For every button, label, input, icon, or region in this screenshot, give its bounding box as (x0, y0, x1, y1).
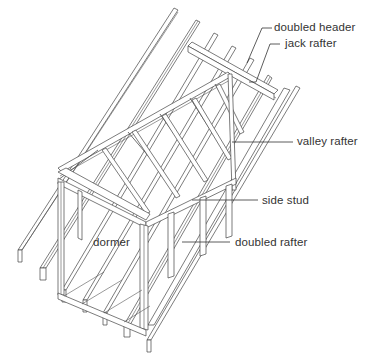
label-dormer: dormer (93, 237, 130, 249)
framing-drawing (0, 0, 367, 353)
dormer-framing-diagram: doubled header jack rafter valley rafter… (0, 0, 367, 353)
label-doubled-header: doubled header (274, 22, 355, 34)
label-side-stud: side stud (262, 195, 309, 207)
label-jack-rafter: jack rafter (285, 38, 337, 50)
label-valley-rafter: valley rafter (297, 136, 358, 148)
label-doubled-rafter: doubled rafter (235, 237, 307, 249)
